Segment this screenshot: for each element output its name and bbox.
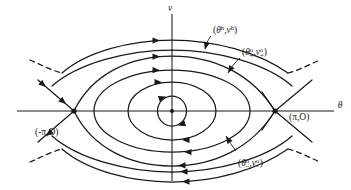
axis-group: [17, 14, 334, 181]
rotation-lower-1-dash-right: [288, 149, 320, 162]
saddle-left-label: (-π,O): [35, 127, 59, 138]
homoclinic-close: ): [234, 25, 237, 36]
arrow-leader-homoclinic: [202, 41, 210, 50]
arrow-rotation-lower-2: [180, 169, 188, 175]
saddle-right-label: (π,O): [289, 112, 309, 123]
arrow-center-orbit-outer-top: [153, 67, 161, 73]
theta-axis-label: θ: [338, 100, 343, 110]
arrow-center-orbit-middle-top: [155, 79, 163, 85]
arrow-separatrix-lower-center: [178, 162, 186, 168]
arrow-center-orbit-outer-bottom: [184, 149, 192, 155]
lower-close: ): [260, 158, 263, 169]
label-group: v θ (-π,O) (π,O) (θh,vh) (θo+,vo+) (θo−,…: [35, 3, 343, 170]
rotation-upper-1-dash-right: [288, 60, 320, 73]
arrow-leader-lower-rotation: [223, 134, 232, 144]
v-axis-label: v: [168, 3, 173, 13]
saddle-right-branch-upper-right: [275, 80, 312, 111]
arrow-center-orbit-middle-bottom: [182, 137, 190, 143]
separatrix-upper: [74, 56, 275, 111]
arrow-leader-upper-rotation: [225, 65, 234, 75]
rotation-lower-2-left: [52, 136, 172, 172]
arrow-rotation-lower-1: [182, 179, 190, 185]
rotation-upper-1-dash-left: [30, 60, 62, 73]
saddle-right-dot: [272, 108, 277, 113]
phase-portrait-figure: v θ (-π,O) (π,O) (θh,vh) (θo+,vo+) (θo−,…: [0, 0, 351, 190]
upper-rotation-label: (θo+,vo+): [242, 46, 267, 60]
homoclinic-label: (θh,vh): [213, 24, 237, 36]
rotation-curves-lower: [30, 136, 320, 185]
rotation-curves-upper: [30, 37, 320, 86]
arrow-separatrix-upper-center: [153, 54, 161, 60]
rotation-lower-1-dash-left: [30, 149, 62, 162]
phase-portrait-canvas: v θ (-π,O) (π,O) (θh,vh) (θo+,vo+) (θo−,…: [0, 0, 351, 190]
arrow-rotation-upper-1: [153, 37, 161, 43]
upper-close: ): [264, 47, 267, 58]
saddle-left-dot: [71, 108, 76, 113]
center-fixed-point-dot: [170, 109, 174, 113]
